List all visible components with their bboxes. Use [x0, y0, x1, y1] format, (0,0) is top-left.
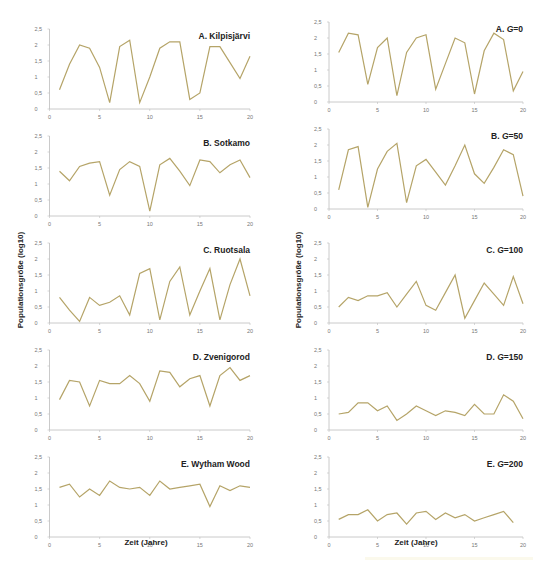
x-tick-label: 0	[48, 221, 51, 227]
y-tick-label: 1,5	[314, 51, 322, 57]
chart-title: B. Sotkamo	[203, 138, 250, 148]
y-axis-label-right: Populationsgröße (log10)	[294, 231, 303, 328]
chart-title: C. Ruotsala	[203, 245, 250, 255]
y-tick-label: 1,5	[35, 58, 43, 64]
y-tick-label: 1	[35, 74, 38, 80]
data-series-line	[339, 33, 523, 95]
x-tick-label: 10	[423, 107, 429, 113]
y-tick-label: 2,5	[314, 347, 322, 353]
x-tick-label: 20	[520, 328, 526, 334]
x-tick-label: 20	[520, 214, 526, 220]
y-tick-label: 0,5	[35, 411, 43, 417]
x-tick-label: 0	[327, 214, 330, 220]
chart-panel-left-0: 00,511,522,505101520A. Kilpisjärvi	[35, 26, 254, 120]
y-tick-label: 1,5	[314, 486, 322, 492]
y-tick-label: 0,5	[314, 190, 322, 196]
y-tick-label: 1	[314, 67, 317, 73]
x-tick-label: 0	[48, 542, 51, 548]
y-tick-label: 0	[35, 213, 38, 219]
y-tick-label: 1	[314, 174, 317, 180]
y-tick-label: 2	[35, 256, 38, 262]
y-tick-label: 2	[35, 42, 38, 48]
y-tick-label: 0	[314, 206, 317, 212]
x-tick-label: 0	[327, 435, 330, 441]
chart-panel-right-1: 00,511,522,505101520B. G=50	[314, 126, 526, 220]
y-tick-label: 1,5	[314, 272, 322, 278]
chart-panel-left-3: 00,511,522,505101520D. Zvenigorod	[35, 347, 254, 441]
x-tick-label: 10	[147, 221, 153, 227]
chart-title: A. Kilpisjärvi	[199, 31, 251, 41]
x-tick-label: 20	[520, 435, 526, 441]
y-tick-label: 1,5	[314, 158, 322, 164]
y-tick-label: 1,5	[314, 379, 322, 385]
chart-panel-right-3: 00,511,522,505101520D. G=150	[314, 347, 526, 441]
y-tick-label: 1	[35, 395, 38, 401]
x-tick-label: 10	[423, 435, 429, 441]
y-tick-label: 0	[314, 427, 317, 433]
y-tick-label: 2	[314, 470, 317, 476]
data-series-line	[339, 395, 523, 421]
y-tick-label: 2	[314, 363, 317, 369]
chart-title: B. G=50	[491, 131, 523, 141]
chart-panel-right-4: 00,511,522,505101520E. G=200	[314, 454, 526, 548]
y-tick-label: 2,5	[314, 19, 322, 25]
y-tick-label: 1,5	[35, 272, 43, 278]
y-tick-label: 2	[314, 35, 317, 41]
x-tick-label: 5	[376, 542, 379, 548]
x-tick-label: 5	[98, 435, 101, 441]
x-tick-label: 10	[147, 328, 153, 334]
data-series-line	[60, 40, 251, 102]
x-tick-label: 15	[471, 328, 477, 334]
x-tick-label: 15	[471, 107, 477, 113]
x-tick-label: 20	[247, 542, 253, 548]
y-tick-label: 0	[35, 320, 38, 326]
x-tick-label: 20	[247, 328, 253, 334]
y-tick-label: 0,5	[314, 518, 322, 524]
x-tick-label: 15	[197, 542, 203, 548]
data-series-line	[339, 275, 523, 318]
y-tick-label: 2,5	[35, 347, 43, 353]
y-tick-label: 1	[314, 502, 317, 508]
y-axis-label-left: Populationsgröße (log10)	[16, 231, 25, 328]
chart-title: D. G=150	[486, 352, 523, 362]
chart-title: C. G=100	[486, 245, 523, 255]
x-tick-label: 5	[98, 542, 101, 548]
x-tick-label: 15	[471, 214, 477, 220]
x-tick-label: 20	[520, 107, 526, 113]
y-tick-label: 0,5	[314, 411, 322, 417]
x-tick-label: 5	[98, 114, 101, 120]
x-axis-label-right: Zeit (Jahre)	[394, 538, 437, 547]
x-tick-label: 20	[247, 435, 253, 441]
y-tick-label: 0,5	[35, 197, 43, 203]
x-tick-label: 5	[98, 221, 101, 227]
y-tick-label: 0	[314, 99, 317, 105]
x-tick-label: 0	[48, 435, 51, 441]
axes	[329, 457, 523, 537]
x-tick-label: 10	[423, 214, 429, 220]
figure-canvas: 00,511,522,505101520A. Kilpisjärvi00,511…	[0, 0, 543, 564]
x-tick-label: 5	[376, 214, 379, 220]
x-tick-label: 10	[147, 435, 153, 441]
x-tick-label: 0	[48, 114, 51, 120]
axes	[329, 350, 523, 430]
chart-panel-right-0: 00,511,522,505101520A. G=0	[314, 19, 526, 113]
y-tick-label: 1	[35, 288, 38, 294]
y-tick-label: 2	[35, 470, 38, 476]
y-tick-label: 0,5	[314, 304, 322, 310]
axes	[50, 29, 251, 109]
data-series-line	[60, 368, 251, 406]
y-tick-label: 2,5	[314, 240, 322, 246]
y-tick-label: 0	[314, 534, 317, 540]
axes	[50, 243, 251, 323]
y-tick-label: 1	[314, 288, 317, 294]
y-tick-label: 0	[35, 427, 38, 433]
y-tick-label: 2	[314, 256, 317, 262]
x-tick-label: 20	[520, 542, 526, 548]
x-tick-label: 0	[327, 107, 330, 113]
x-tick-label: 5	[376, 328, 379, 334]
y-tick-label: 0,5	[314, 83, 322, 89]
chart-panel-left-4: 00,511,522,505101520E. Wytham Wood	[35, 454, 254, 548]
data-series-line	[60, 481, 251, 507]
x-tick-label: 15	[197, 328, 203, 334]
x-tick-label: 15	[471, 435, 477, 441]
